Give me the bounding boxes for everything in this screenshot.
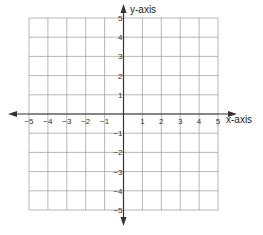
x-tick-label: −1 (100, 117, 110, 126)
x-tick-label: 3 (178, 117, 183, 126)
y-axis-up-arrow-icon (121, 4, 127, 13)
x-axis-label: x-axis (226, 114, 252, 125)
y-tick-label: −2 (113, 148, 123, 157)
coordinate-plane: −5−4−3−2−11234554321−1−2−3−4−5x-axisy-ax… (0, 0, 263, 235)
y-tick-label: −4 (113, 187, 123, 196)
y-tick-label: −5 (113, 206, 123, 215)
y-tick-label: 3 (118, 52, 123, 61)
x-tick-label: 5 (216, 117, 221, 126)
x-tick-label: 1 (140, 117, 145, 126)
y-tick-label: −3 (113, 168, 123, 177)
x-axis-left-arrow-icon (8, 111, 17, 117)
x-tick-label: 4 (197, 117, 202, 126)
x-tick-label: −2 (81, 117, 91, 126)
x-tick-label: 2 (159, 117, 164, 126)
y-tick-label: 5 (118, 14, 123, 23)
x-tick-label: −4 (43, 117, 53, 126)
y-axis-down-arrow-icon (121, 217, 127, 226)
y-tick-label: 1 (118, 91, 123, 100)
y-tick-label: 4 (118, 33, 123, 42)
y-axis-label: y-axis (130, 4, 156, 15)
x-tick-label: −5 (24, 117, 34, 126)
x-tick-label: −3 (62, 117, 72, 126)
y-tick-label: −1 (113, 129, 123, 138)
y-tick-label: 2 (118, 72, 123, 81)
